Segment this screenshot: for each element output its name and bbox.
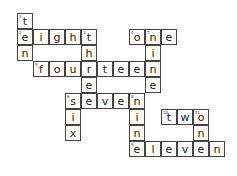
crossword-cell[interactable]: r: [81, 61, 97, 77]
cell-letter: g: [50, 31, 64, 45]
cell-letter: e: [162, 143, 176, 157]
crossword-cell[interactable]: w: [177, 109, 193, 125]
cell-letter: e: [114, 63, 128, 77]
crossword-cell[interactable]: n: [209, 141, 225, 157]
crossword-cell[interactable]: u: [65, 61, 81, 77]
crossword-cell[interactable]: h: [65, 29, 81, 45]
crossword-cell[interactable]: i: [129, 109, 145, 125]
crossword-cell[interactable]: 5f: [33, 61, 49, 77]
cell-letter: n: [18, 47, 32, 61]
crossword-cell[interactable]: o: [49, 61, 65, 77]
cell-letter: i: [66, 111, 80, 125]
crossword-cell[interactable]: e: [193, 141, 209, 157]
cell-letter: v: [98, 95, 112, 109]
cell-letter: t: [98, 63, 112, 77]
crossword-cell[interactable]: 10t: [161, 109, 177, 125]
cell-letter: n: [146, 63, 160, 77]
crossword-cell[interactable]: e: [113, 61, 129, 77]
crossword-cell[interactable]: g: [49, 29, 65, 45]
cell-letter: u: [66, 63, 80, 77]
crossword-cell[interactable]: e: [129, 61, 145, 77]
crossword-cell[interactable]: v: [97, 93, 113, 109]
cell-letter: o: [50, 63, 64, 77]
crossword-cell[interactable]: n: [17, 45, 33, 61]
crossword-cell[interactable]: t: [97, 61, 113, 77]
crossword-cell[interactable]: 11o: [193, 109, 209, 125]
cell-letter: n: [210, 143, 224, 157]
crossword-cell[interactable]: 3t: [81, 29, 97, 45]
cell-letter: h: [66, 31, 80, 45]
cell-letter: e: [114, 95, 128, 109]
cell-letter: e: [82, 95, 96, 109]
cell-letter: o: [130, 31, 144, 45]
cell-letter: e: [146, 79, 160, 93]
crossword-cell[interactable]: n: [145, 61, 161, 77]
cell-letter: i: [34, 31, 48, 45]
cell-letter: r: [82, 63, 96, 77]
crossword-cell[interactable]: 9e: [129, 141, 145, 157]
crossword-cell[interactable]: e: [161, 29, 177, 45]
crossword-cell[interactable]: 6s: [65, 93, 81, 109]
crossword-cell[interactable]: 7n: [145, 29, 161, 45]
crossword-cell[interactable]: i: [145, 45, 161, 61]
cell-letter: e: [130, 63, 144, 77]
cell-letter: e: [162, 31, 176, 45]
cell-letter: t: [82, 31, 96, 45]
cell-letter: n: [130, 127, 144, 141]
crossword-cell[interactable]: e: [161, 141, 177, 157]
crossword-cell[interactable]: i: [33, 29, 49, 45]
crossword-cell[interactable]: n: [129, 125, 145, 141]
crossword-cell[interactable]: v: [177, 141, 193, 157]
cell-letter: t: [18, 15, 32, 29]
crossword-cell[interactable]: x: [65, 125, 81, 141]
crossword-cell[interactable]: n: [193, 125, 209, 141]
crossword-cell[interactable]: 1t: [17, 13, 33, 29]
crossword-cell[interactable]: l: [145, 141, 161, 157]
cell-letter: t: [162, 111, 176, 125]
crossword-cell[interactable]: h: [81, 45, 97, 61]
cell-letter: n: [146, 31, 160, 45]
cell-letter: i: [130, 111, 144, 125]
crossword-cell[interactable]: 8n: [129, 93, 145, 109]
cell-letter: x: [66, 127, 80, 141]
cell-letter: i: [146, 47, 160, 61]
crossword-cell[interactable]: e: [113, 93, 129, 109]
cell-letter: f: [34, 63, 48, 77]
cell-letter: s: [66, 95, 80, 109]
crossword-cell[interactable]: e: [81, 77, 97, 93]
crossword-cell[interactable]: i: [65, 109, 81, 125]
cell-letter: n: [130, 95, 144, 109]
cell-letter: o: [194, 111, 208, 125]
crossword-cell[interactable]: e: [81, 93, 97, 109]
crossword-cell[interactable]: 4o: [129, 29, 145, 45]
cell-letter: e: [194, 143, 208, 157]
crossword-cell[interactable]: e: [145, 77, 161, 93]
cell-letter: e: [130, 143, 144, 157]
cell-letter: v: [178, 143, 192, 157]
cell-letter: e: [18, 31, 32, 45]
cell-letter: n: [194, 127, 208, 141]
cell-letter: l: [146, 143, 160, 157]
cell-letter: h: [82, 47, 96, 61]
cell-letter: w: [178, 111, 192, 125]
crossword-cell[interactable]: 2e: [17, 29, 33, 45]
cell-letter: e: [82, 79, 96, 93]
